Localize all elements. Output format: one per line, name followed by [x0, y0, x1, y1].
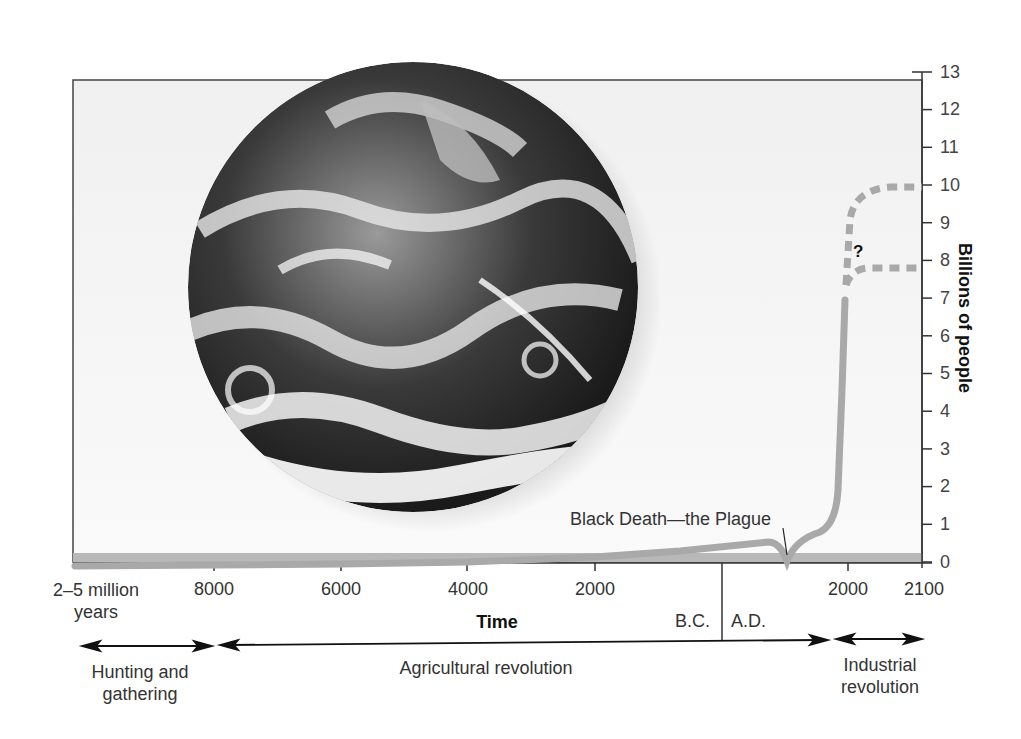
x-tick-label: 2100 [904, 580, 944, 598]
y-tick-label: 8 [940, 251, 950, 269]
y-tick-label: 13 [940, 63, 960, 81]
x-tick-label: 6000 [321, 580, 361, 598]
y-tick-label: 9 [940, 214, 950, 232]
x-tick-label-start: 2–5 million years [53, 579, 139, 623]
y-tick-label: 5 [940, 364, 950, 382]
y-tick-label: 7 [940, 289, 950, 307]
x-tick-label: 8000 [194, 580, 234, 598]
ad-label: A.D. [731, 612, 766, 630]
x-axis-title: Time [476, 613, 518, 631]
y-tick-label: 0 [940, 553, 950, 571]
x-tick-label: 2000 [828, 580, 868, 598]
industrial-arrow [836, 634, 922, 644]
plague-annotation: Black Death—the Plague [570, 510, 771, 528]
period-agricultural-label: Agricultural revolution [399, 659, 572, 677]
x-tick-label: 4000 [448, 580, 488, 598]
y-tick-label: 3 [940, 440, 950, 458]
y-tick-label: 4 [940, 402, 950, 420]
y-axis-title: Billions of people [954, 243, 975, 393]
agricultural-arrow [220, 635, 828, 650]
hunting-arrow [82, 641, 212, 651]
projection-question-mark: ? [853, 243, 863, 260]
period-hunting-label: Hunting and gathering [91, 661, 188, 705]
y-tick-label: 2 [940, 477, 950, 495]
earth-globe-image [188, 62, 640, 512]
y-tick-label: 6 [940, 327, 950, 345]
y-tick-label: 10 [940, 176, 960, 194]
period-industrial-label: Industrial revolution [841, 654, 919, 698]
y-tick-label: 11 [940, 138, 959, 156]
bc-label: B.C. [675, 612, 710, 630]
y-tick-label: 1 [940, 515, 950, 533]
x-tick-label: 2000 [575, 580, 615, 598]
y-tick-label: 12 [940, 100, 960, 118]
